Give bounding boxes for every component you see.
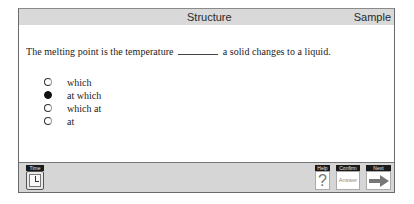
option-label: at — [67, 115, 74, 128]
question-before-blank: The melting point is the temperature — [26, 46, 174, 57]
radio-button[interactable] — [44, 117, 52, 125]
confirm-answer-text: Answer — [337, 177, 359, 183]
help-button[interactable]: ? — [315, 171, 330, 190]
option-label: at which — [67, 89, 101, 102]
confirm-answer-button[interactable]: Answer — [336, 171, 360, 190]
radio-button-selected[interactable] — [44, 91, 52, 99]
radio-button[interactable] — [44, 78, 52, 86]
question-after-blank: a solid changes to a liquid. — [223, 46, 331, 57]
question-text: The melting point is the temperature a s… — [26, 46, 331, 57]
mode-label: Sample — [354, 10, 391, 24]
section-title: Structure — [187, 10, 232, 24]
option-label: which at — [67, 102, 101, 115]
radio-button[interactable] — [44, 104, 52, 112]
time-button[interactable] — [26, 171, 44, 190]
toolbar: Time Help ? Confirm Answer Next — [19, 162, 394, 192]
answer-blank — [178, 46, 218, 55]
next-button[interactable] — [366, 171, 391, 190]
question-mark-icon: ? — [316, 171, 329, 190]
arrow-right-icon — [369, 175, 389, 187]
header-bar: Structure Sample — [19, 9, 394, 25]
test-window: Structure Sample The melting point is th… — [18, 8, 395, 193]
clock-icon — [29, 174, 41, 187]
option-label: which — [67, 76, 91, 89]
